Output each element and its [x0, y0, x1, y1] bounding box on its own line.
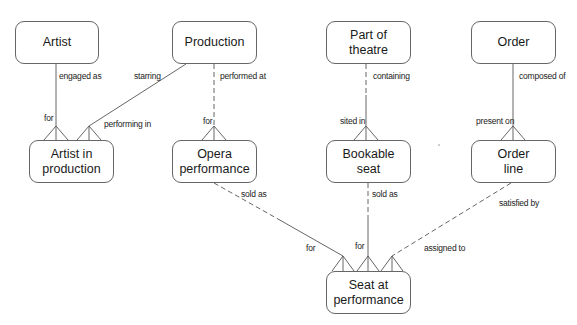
label-performed-at: performed at — [220, 71, 266, 81]
entity-seat-at-performance[interactable]: Seat at performance — [326, 271, 411, 314]
label-composed-of: composed of — [519, 71, 565, 81]
entity-order[interactable]: Order — [471, 21, 556, 64]
label-satisfied-by: satisfied by — [499, 198, 539, 208]
label-for: for — [355, 241, 364, 251]
entity-order-line[interactable]: Order line — [471, 140, 556, 183]
entity-artist-in-production[interactable]: Artist in production — [29, 140, 114, 183]
label-sold-as: sold as — [372, 189, 398, 199]
label-assigned-to: assigned to — [424, 243, 465, 253]
label-for: for — [44, 113, 53, 123]
label-present-on: present on — [476, 116, 514, 126]
label-starring: starring — [134, 71, 161, 81]
entity-artist[interactable]: Artist — [15, 21, 99, 64]
label-for: for — [306, 243, 315, 253]
label-performing-in: performing in — [104, 119, 151, 129]
label-for: for — [203, 116, 212, 126]
entity-opera-performance[interactable]: Opera performance — [172, 140, 257, 183]
label-containing: containing — [373, 71, 410, 81]
label-sited-in: sited in — [340, 116, 365, 126]
label-sold-as: sold as — [241, 189, 267, 199]
entity-part-of-theatre[interactable]: Part of theatre — [326, 21, 411, 64]
entity-production[interactable]: Production — [172, 21, 257, 64]
label-engaged-as: engaged as — [59, 71, 101, 81]
entity-bookable-seat[interactable]: Bookable seat — [326, 140, 411, 183]
